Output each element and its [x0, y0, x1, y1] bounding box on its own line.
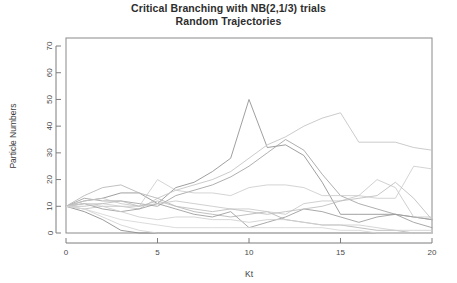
y-axis-title: Particle Numbers	[8, 103, 18, 168]
y-tick-label: 0	[46, 230, 55, 235]
x-axis: 05101520	[64, 238, 437, 257]
y-tick-label: 70	[46, 41, 55, 50]
plot-area: 010203040506070 05101520 Kt Particle Num…	[0, 0, 457, 283]
y-tick-label: 30	[46, 148, 55, 157]
y-tick-label: 10	[46, 201, 55, 210]
y-tick-label: 20	[46, 175, 55, 184]
y-tick-label: 50	[46, 94, 55, 103]
y-tick-label: 60	[46, 68, 55, 77]
trajectory-lines	[66, 99, 432, 233]
x-axis-title: Kt	[245, 269, 254, 279]
trajectory-line	[66, 99, 432, 219]
trajectory-line	[66, 113, 432, 209]
x-tick-label: 10	[245, 248, 254, 257]
y-axis: 010203040506070	[46, 41, 62, 235]
x-tick-label: 15	[336, 248, 345, 257]
trajectory-line	[66, 204, 432, 228]
x-tick-label: 5	[155, 248, 160, 257]
figure-canvas: Critical Branching with NB(2,1/3) trials…	[0, 0, 457, 283]
x-tick-label: 0	[64, 248, 69, 257]
y-tick-label: 40	[46, 121, 55, 130]
x-tick-label: 20	[428, 248, 437, 257]
trajectory-line	[66, 166, 432, 206]
trajectory-line	[66, 206, 432, 233]
